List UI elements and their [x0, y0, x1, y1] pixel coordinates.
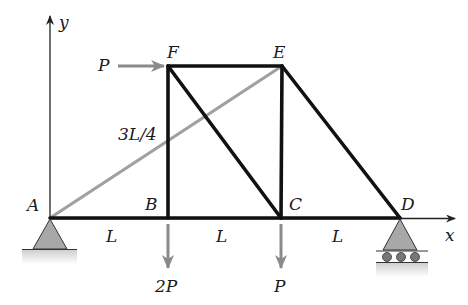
x-axis-label: x [445, 225, 455, 245]
load-label-C: P [273, 276, 286, 296]
member-AE [50, 66, 282, 218]
dim-label-BC: L [215, 226, 227, 246]
y-axis-label: y [58, 12, 69, 32]
node-label-E: E [272, 42, 286, 62]
load-label-B: 2P [154, 276, 178, 296]
node-label-B: B [144, 194, 158, 214]
dim-label-height: 3L/4 [118, 124, 157, 144]
roller-wheel-icon [411, 253, 420, 262]
dim-label-CD: L [331, 226, 343, 246]
member-FC [168, 66, 281, 218]
truss-members [50, 66, 400, 218]
member-CE [281, 66, 282, 218]
load-label-F: P [97, 55, 110, 75]
pin-support-A [22, 219, 77, 264]
roller-support-icon [383, 219, 417, 250]
roller-wheel-icon [383, 253, 392, 262]
node-labels: A B C D E F [25, 42, 415, 215]
truss-diagram: y x P 2P P A B C [0, 0, 468, 305]
node-label-A: A [25, 195, 39, 215]
loads: P 2P P [97, 55, 286, 296]
pin-support-icon [33, 219, 67, 249]
dim-label-AB: L [105, 226, 117, 246]
node-label-C: C [289, 194, 302, 214]
roller-wheel-icon [397, 253, 406, 262]
node-label-D: D [400, 194, 415, 214]
roller-support-D [376, 219, 428, 277]
node-label-F: F [166, 42, 180, 62]
